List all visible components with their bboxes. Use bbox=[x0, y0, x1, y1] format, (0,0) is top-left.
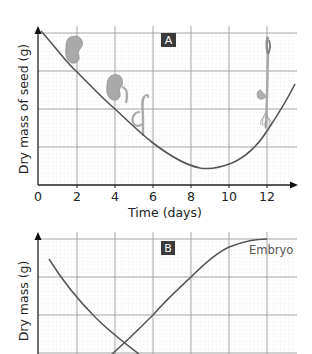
y-axis-arrow-icon bbox=[35, 26, 42, 34]
x-axis-label: Time (days) bbox=[127, 205, 202, 220]
embryo-series-label: Embryo bbox=[249, 243, 293, 257]
x-tick-4: 4 bbox=[111, 189, 119, 204]
panel-label-a: A bbox=[165, 34, 173, 47]
x-tick-12: 12 bbox=[259, 189, 275, 204]
x-tick-6: 6 bbox=[149, 189, 157, 204]
y-axis-label: Dry mass (g) bbox=[16, 261, 31, 342]
x-tick-8: 8 bbox=[187, 189, 195, 204]
chart-b: Dry mass (g) B Embryo bbox=[16, 232, 297, 354]
x-tick-10: 10 bbox=[221, 189, 237, 204]
x-tick-0: 0 bbox=[34, 189, 42, 204]
figure-canvas: 0 2 4 6 8 10 12 Time (days) Dry mass of … bbox=[0, 0, 312, 354]
y-axis-label: Dry mass of seed (g) bbox=[16, 44, 31, 174]
chart-a: 0 2 4 6 8 10 12 Time (days) Dry mass of … bbox=[16, 26, 298, 220]
x-tick-2: 2 bbox=[73, 189, 81, 204]
y-axis-arrow-icon bbox=[35, 232, 42, 240]
panel-label-b: B bbox=[164, 242, 172, 255]
